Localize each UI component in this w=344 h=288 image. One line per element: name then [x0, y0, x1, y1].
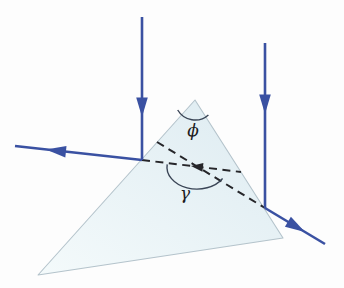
prism-triangle [38, 100, 283, 275]
gamma-angle-label: γ [180, 183, 191, 203]
incident-ray-right [259, 43, 271, 208]
arrow-left-icon [46, 146, 67, 158]
prism-reflection-figure: ϕ γ [0, 0, 344, 288]
incident-ray-left [136, 17, 148, 160]
arrow-down-right-icon [285, 217, 305, 232]
apex-angle-label: ϕ [187, 120, 199, 140]
exit-ray-left [15, 146, 142, 160]
arrow-down-icon [259, 95, 271, 115]
arrow-down-icon [136, 98, 148, 118]
exit-ray-left-line [15, 146, 142, 160]
diagram-canvas: ϕ γ [0, 0, 344, 288]
